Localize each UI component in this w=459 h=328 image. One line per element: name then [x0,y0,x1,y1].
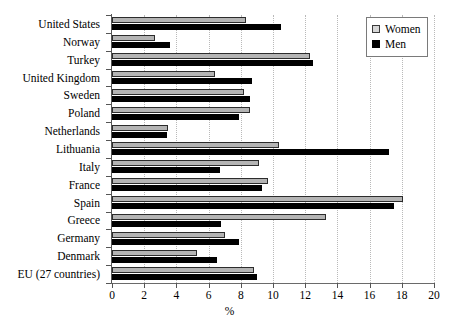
bar-men [112,96,250,102]
x-axis-tick-label: 20 [428,289,440,302]
bar-men [112,239,239,245]
x-axis-tick [273,283,274,288]
y-axis-label: Italy [79,161,100,173]
legend: Women Men [366,17,428,57]
bar-women [112,232,225,238]
y-axis-tick [106,176,111,177]
y-axis-tick [106,122,111,123]
x-axis-title: % [0,305,459,317]
legend-item-men: Men [372,37,420,51]
x-axis-title-label: % [225,305,235,317]
y-axis-label: Spain [74,197,100,209]
bar-row [112,140,434,158]
y-axis-label: Netherlands [44,125,100,137]
y-axis-tick [106,69,111,70]
bar-men [112,185,262,191]
x-axis-tick [209,283,210,288]
bar-men [112,132,167,138]
bar-women [112,53,310,59]
y-axis-label: Germany [57,232,100,244]
y-axis-label: France [69,179,100,191]
gridline [434,15,436,283]
y-axis-label: Norway [63,36,100,48]
bar-women [112,71,215,77]
bar-row [112,194,434,212]
y-axis-label: United Kingdom [22,72,100,84]
bar-women [112,142,279,148]
bar-men [112,221,221,227]
bar-row [112,212,434,230]
bar-row [112,158,434,176]
x-axis-tick [337,283,338,288]
y-axis-tick [106,265,111,266]
y-axis-label: Turkey [67,54,100,66]
bar-women [112,196,403,202]
y-axis-tick [106,158,111,159]
x-axis-tick [370,283,371,288]
y-axis-tick [106,283,111,284]
x-axis-tick [402,283,403,288]
y-axis-label: Greece [67,214,100,226]
bar-row [112,247,434,265]
bar-row [112,86,434,104]
x-axis-tick-label: 14 [332,289,344,302]
x-axis-tick-label: 8 [238,289,244,302]
bar-men [112,42,170,48]
y-axis-label: Denmark [57,250,100,262]
bar-women [112,214,326,220]
bar-men [112,274,257,280]
y-axis-tick [106,229,111,230]
legend-label-men: Men [385,37,406,51]
x-axis-tick [434,283,435,288]
x-axis-tick-label: 6 [206,289,212,302]
legend-swatch-men-icon [372,40,380,48]
x-axis-tick-label: 4 [174,289,180,302]
bar-men [112,203,394,209]
bar-women [112,267,254,273]
bar-row [112,104,434,122]
bar-women [112,125,168,131]
y-axis-label: Sweden [64,89,100,101]
bar-women [112,250,197,256]
x-axis-tick-label: 16 [364,289,376,302]
x-axis-tick-label: 2 [141,289,147,302]
bar-women [112,35,155,41]
y-axis-tick [106,86,111,87]
bar-women [112,107,250,113]
bar-row [112,265,434,283]
y-axis-tick [106,104,111,105]
y-axis-tick [106,15,111,16]
y-axis-label: United States [38,18,100,30]
bar-men [112,78,252,84]
bar-men [112,257,217,263]
y-axis-tick [106,194,111,195]
x-axis-tick [241,283,242,288]
x-axis-tick [112,283,113,288]
x-axis-tick-label: 12 [299,289,311,302]
x-axis-tick [305,283,306,288]
bar-women [112,89,244,95]
bar-women [112,178,268,184]
bar-row [112,176,434,194]
y-axis-labels: United StatesNorwayTurkeyUnited KingdomS… [0,15,108,283]
y-axis-tick [106,247,111,248]
x-axis-tick [176,283,177,288]
bar-row [112,229,434,247]
bar-chart: United StatesNorwayTurkeyUnited KingdomS… [0,0,459,328]
bar-men [112,149,389,155]
legend-swatch-women-icon [372,25,380,33]
y-axis-label: Poland [68,107,100,119]
bar-women [112,17,246,23]
x-axis-tick-label: 0 [109,289,115,302]
x-axis-tick [144,283,145,288]
bar-men [112,114,239,120]
bar-row [112,69,434,87]
bar-men [112,60,313,66]
bar-men [112,167,220,173]
x-axis-tick-label: 18 [396,289,408,302]
bar-row [112,122,434,140]
legend-item-women: Women [372,22,420,36]
x-axis-tick-label: 10 [267,289,279,302]
y-axis-tick [106,33,111,34]
y-axis-tick [106,212,111,213]
